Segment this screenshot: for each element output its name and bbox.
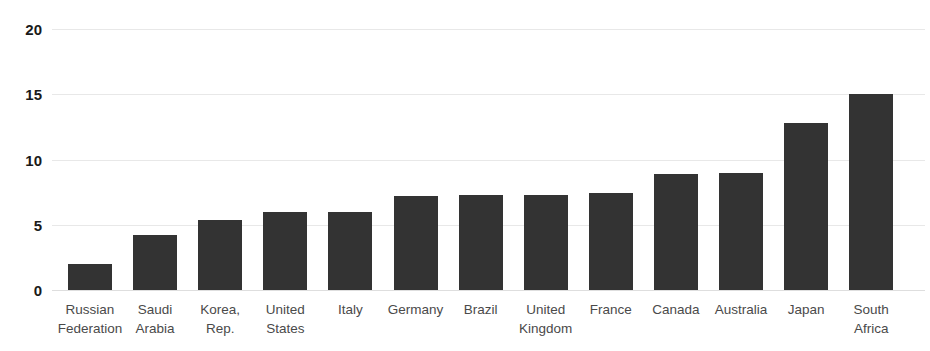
bar-italy (328, 212, 372, 290)
x-axis-label-line: Kingdom (507, 319, 585, 338)
bar-united-states (263, 212, 307, 290)
bar-brazil (459, 195, 503, 290)
x-axis-label-south-africa: SouthAfrica (832, 300, 910, 338)
bar-series (0, 0, 930, 291)
bar-japan (784, 123, 828, 290)
bar-south-africa (849, 94, 893, 290)
bar-france (589, 193, 633, 290)
x-axis-category-labels: RussianFederationSaudiArabiaKorea,Rep.Un… (0, 296, 930, 351)
bar-korea-rep (198, 220, 242, 290)
bar-chart: 05101520 RussianFederationSaudiArabiaKor… (0, 0, 930, 351)
bar-saudi-arabia (133, 235, 177, 290)
bar-australia (719, 173, 763, 290)
bar-united-kingdom (524, 195, 568, 290)
x-axis-label-line: States (246, 319, 324, 338)
bar-germany (394, 196, 438, 290)
bar-russian-federation (68, 264, 112, 290)
x-axis-label-line: Africa (832, 319, 910, 338)
bar-canada (654, 174, 698, 290)
x-axis-label-line: South (832, 300, 910, 319)
